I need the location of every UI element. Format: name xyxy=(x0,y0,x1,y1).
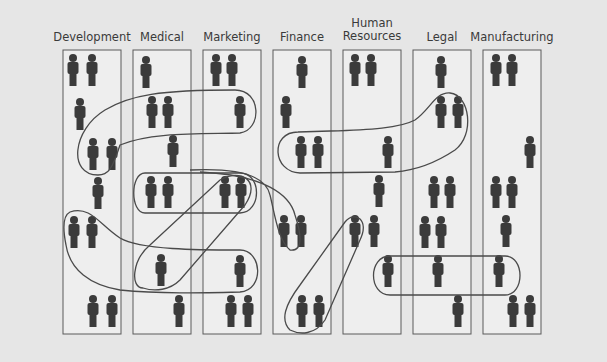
column-label: Legal xyxy=(427,31,458,44)
column-label: Manufacturing xyxy=(470,31,553,44)
column-manufacturing xyxy=(483,50,541,334)
department-diagram: DevelopmentMedicalMarketingFinanceHumanR… xyxy=(0,0,607,362)
column-finance xyxy=(273,50,331,334)
column-legal xyxy=(413,50,471,334)
column-label: Finance xyxy=(280,31,324,44)
column-human xyxy=(343,50,401,334)
column-label: Marketing xyxy=(203,31,260,44)
diagram-canvas xyxy=(0,0,607,362)
column-label: HumanResources xyxy=(343,17,402,43)
column-label: Medical xyxy=(140,31,184,44)
column-label: Development xyxy=(53,31,130,44)
column-marketing xyxy=(203,50,261,334)
column-development xyxy=(63,50,121,334)
